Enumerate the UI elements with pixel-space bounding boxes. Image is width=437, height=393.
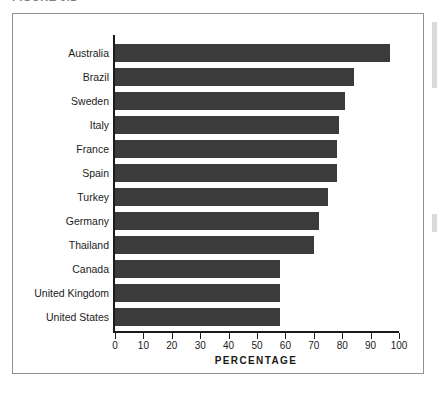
x-axis-tick-label: 0 — [112, 340, 118, 351]
bar-rect — [115, 92, 345, 110]
x-axis-title: PERCENTAGE — [113, 355, 399, 366]
bar-chart-plot-area: AustraliaBrazilSwedenItalyFranceSpainTur… — [0, 0, 437, 393]
x-axis-tick-mark — [257, 333, 258, 339]
x-axis-tick-mark — [342, 333, 343, 339]
bar-rect — [115, 140, 337, 158]
bar-row: Italy — [115, 113, 399, 137]
bar-rect — [115, 260, 280, 278]
bar-category-label: Spain — [82, 161, 109, 185]
bar-category-label: Sweden — [71, 89, 109, 113]
bar-row: Turkey — [115, 185, 399, 209]
x-axis-tick-label: 90 — [365, 340, 376, 351]
x-axis-tick-mark — [115, 333, 116, 339]
x-axis-tick-label: 20 — [166, 340, 177, 351]
bar-row: United Kingdom — [115, 281, 399, 305]
bar-category-label: France — [76, 137, 109, 161]
x-axis-tick-mark — [399, 333, 400, 339]
x-axis-tick-label: 40 — [223, 340, 234, 351]
x-axis-tick-mark — [371, 333, 372, 339]
x-axis-tick-label: 50 — [251, 340, 262, 351]
bar-rect — [115, 116, 339, 134]
bar-row: Canada — [115, 257, 399, 281]
bar-rect — [115, 236, 314, 254]
bar-row: Sweden — [115, 89, 399, 113]
bar-category-label: Thailand — [69, 233, 109, 257]
bar-row: Germany — [115, 209, 399, 233]
bar-category-label: Canada — [72, 257, 109, 281]
x-axis-tick-label: 70 — [308, 340, 319, 351]
bar-row: United States — [115, 305, 399, 329]
bar-category-label: United Kingdom — [34, 281, 109, 305]
x-axis-tick-mark — [172, 333, 173, 339]
x-axis-tick-mark — [229, 333, 230, 339]
x-axis-line — [113, 331, 399, 333]
x-axis-tick-label: 60 — [280, 340, 291, 351]
bar-rect — [115, 212, 319, 230]
x-axis-tick-label: 10 — [138, 340, 149, 351]
x-axis-tick-mark — [143, 333, 144, 339]
x-axis-tick-mark — [314, 333, 315, 339]
bar-rect — [115, 68, 354, 86]
bar-category-label: Turkey — [77, 185, 109, 209]
bar-category-label: Italy — [90, 113, 109, 137]
bar-category-label: Germany — [66, 209, 109, 233]
bar-row: Spain — [115, 161, 399, 185]
bar-row: France — [115, 137, 399, 161]
bar-rect — [115, 44, 390, 62]
x-axis-tick-mark — [200, 333, 201, 339]
bar-category-label: Brazil — [83, 65, 109, 89]
x-axis-tick-label: 30 — [195, 340, 206, 351]
bar-rect — [115, 284, 280, 302]
x-axis-tick-mark — [285, 333, 286, 339]
bar-rect — [115, 164, 337, 182]
bar-row: Brazil — [115, 65, 399, 89]
bar-category-label: Australia — [68, 41, 109, 65]
bar-category-label: United States — [46, 305, 109, 329]
x-axis-tick-label: 100 — [391, 340, 408, 351]
bar-rect — [115, 308, 280, 326]
x-axis-tick-label: 80 — [337, 340, 348, 351]
bar-rect — [115, 188, 328, 206]
bar-row: Thailand — [115, 233, 399, 257]
bar-row: Australia — [115, 41, 399, 65]
